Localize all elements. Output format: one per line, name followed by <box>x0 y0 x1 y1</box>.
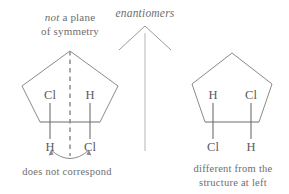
right-ring-bond-apex-to-upper-left <box>192 53 232 84</box>
right-ring-bond-upper-left-to-lower-left <box>192 84 205 122</box>
left-ring-bond-apex-to-upper-right <box>70 51 118 86</box>
not-a-plane-of-symmetry-note: not a plane <box>45 11 95 24</box>
right-atom-top-left: H <box>208 88 217 103</box>
right-caption-line1: different from the <box>194 163 273 175</box>
note-line2: of symmetry <box>41 25 99 38</box>
left-ring-bond-upper-left-to-lower-left <box>22 86 40 122</box>
left-atom-top-right: H <box>85 88 94 103</box>
right-atom-bottom-left: Cl <box>207 140 219 155</box>
left-ring-bond-apex-to-upper-left <box>22 51 70 86</box>
right-atom-bottom-right: H <box>246 140 255 155</box>
left-atom-top-left: Cl <box>44 88 56 103</box>
right-ring-bond-upper-right-to-lower-right <box>259 84 272 122</box>
right-cyclopentane-ring <box>192 53 272 122</box>
enantiomers-leader-left <box>119 26 145 50</box>
right-caption-line2: structure at left <box>199 177 267 189</box>
note-line1-tail: a plane <box>62 11 95 23</box>
left-caption: does not correspond <box>22 166 111 178</box>
right-ring-bond-apex-to-upper-right <box>232 53 272 84</box>
right-substituent-bonds <box>213 103 251 139</box>
left-atom-bottom-right: Cl <box>84 140 96 155</box>
right-atom-top-right: Cl <box>245 88 257 103</box>
enantiomers-label: enantiomers <box>115 7 174 21</box>
figure-canvas: not a plane of symmetry enantiomers Cl H… <box>0 0 289 194</box>
left-ring-bond-upper-right-to-lower-right <box>100 86 118 122</box>
enantiomers-leader-right <box>145 26 171 50</box>
note-italic-not: not <box>45 11 60 23</box>
left-atom-bottom-left: H <box>45 140 54 155</box>
